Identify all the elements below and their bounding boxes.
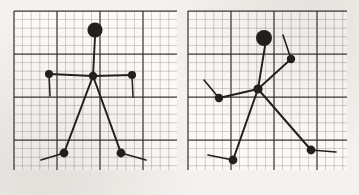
joint-foot-left xyxy=(60,149,69,158)
joint-torso-hub xyxy=(89,72,97,80)
joint-hand-right xyxy=(287,55,295,63)
joint-foot-right xyxy=(307,146,316,155)
head-node xyxy=(256,30,272,46)
stick-figure-diagram xyxy=(0,0,359,195)
joint-foot-right xyxy=(117,149,126,158)
joint-hand-left xyxy=(215,94,223,102)
right-panel xyxy=(188,11,347,170)
joint-hand-left xyxy=(45,70,53,78)
joint-torso-hub xyxy=(253,84,262,93)
joint-foot-left xyxy=(229,156,238,165)
left-panel xyxy=(14,11,177,170)
head-node xyxy=(87,22,102,37)
joint-hand-right xyxy=(128,71,136,79)
bone-arm-right xyxy=(93,75,132,76)
